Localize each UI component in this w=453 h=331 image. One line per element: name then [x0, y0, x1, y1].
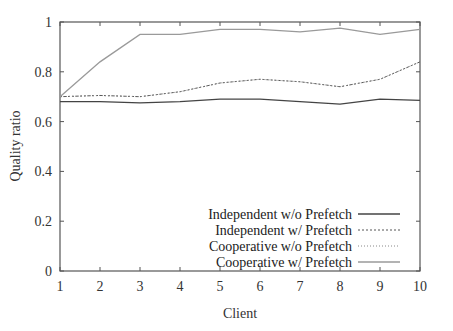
- y-tick-label: 0.2: [35, 214, 53, 229]
- legend-label: Independent w/o Prefetch: [208, 207, 352, 222]
- x-tick-label: 8: [337, 279, 344, 294]
- x-tick-label: 3: [137, 279, 144, 294]
- y-tick-label: 0.6: [35, 115, 53, 130]
- x-tick-label: 2: [97, 279, 104, 294]
- legend-label: Independent w/ Prefetch: [215, 223, 352, 238]
- series-line-2: [60, 62, 420, 97]
- x-tick-label: 5: [217, 279, 224, 294]
- x-tick-label: 6: [257, 279, 264, 294]
- series-line-0: [60, 99, 420, 104]
- y-tick-label: 0.4: [35, 164, 53, 179]
- series-lines: [60, 28, 420, 104]
- y-tick-label: 0.8: [35, 65, 53, 80]
- x-tick-label: 7: [297, 279, 304, 294]
- y-tick-label: 1: [45, 15, 52, 30]
- x-axis-label: Client: [223, 306, 257, 321]
- x-tick-label: 4: [177, 279, 184, 294]
- line-chart: 00.20.40.60.81 12345678910 Client Qualit…: [0, 0, 453, 331]
- series-line-3: [60, 28, 420, 96]
- x-tick-label: 1: [57, 279, 64, 294]
- series-line-1: [60, 62, 420, 97]
- x-tick-label: 9: [377, 279, 384, 294]
- y-tick-label: 0: [45, 264, 52, 279]
- y-axis-label: Quality ratio: [8, 110, 23, 181]
- x-tick-label: 10: [413, 279, 427, 294]
- legend-label: Cooperative w/o Prefetch: [209, 239, 352, 254]
- legend-label: Cooperative w/ Prefetch: [216, 255, 352, 270]
- legend: Independent w/o PrefetchIndependent w/ P…: [208, 207, 400, 270]
